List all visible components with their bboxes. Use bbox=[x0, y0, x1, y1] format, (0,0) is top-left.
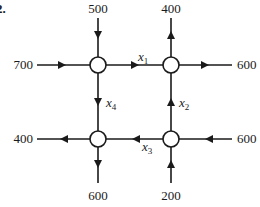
node-top-right bbox=[163, 57, 179, 73]
label-400-top: 400 bbox=[161, 1, 181, 16]
arrow-down-icon bbox=[94, 31, 102, 39]
arrow-left-icon bbox=[132, 135, 140, 143]
node-top-left bbox=[90, 57, 106, 73]
arrow-right-icon bbox=[58, 61, 66, 69]
arrow-up-icon bbox=[167, 160, 175, 168]
label-x4: x4 bbox=[105, 95, 117, 112]
arrow-left-icon bbox=[60, 135, 68, 143]
arrow-down-icon bbox=[94, 98, 102, 106]
label-200-bottom: 200 bbox=[161, 188, 181, 203]
arrow-right-icon bbox=[201, 61, 209, 69]
problem-number: 2. bbox=[0, 1, 6, 16]
arrow-up-icon bbox=[167, 98, 175, 106]
label-700-left: 700 bbox=[14, 57, 34, 72]
arrow-left-icon bbox=[205, 135, 213, 143]
label-600-right-top: 600 bbox=[237, 57, 257, 72]
label-x1: x1 bbox=[137, 49, 148, 66]
label-x2: x2 bbox=[178, 95, 189, 112]
label-500-top: 500 bbox=[88, 1, 108, 16]
label-600-bottom: 600 bbox=[88, 188, 108, 203]
label-x3: x3 bbox=[141, 139, 153, 156]
arrow-down-icon bbox=[94, 160, 102, 168]
node-bottom-right bbox=[163, 131, 179, 147]
traffic-flow-diagram: 2. 500 400 700 600 400 600 600 200 bbox=[0, 0, 260, 207]
label-600-right-bottom: 600 bbox=[237, 131, 257, 146]
label-400-left: 400 bbox=[14, 131, 34, 146]
arrow-up-icon bbox=[167, 31, 175, 39]
node-bottom-left bbox=[90, 131, 106, 147]
